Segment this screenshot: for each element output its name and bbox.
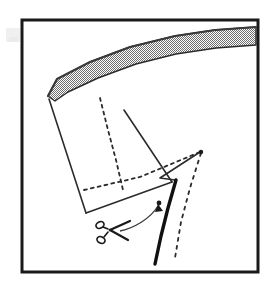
figure-drawing (0, 0, 274, 292)
arrow-tail-dot (157, 201, 162, 206)
scan-artifact-blob-secondary (9, 37, 18, 42)
scissors-pivot (109, 229, 112, 232)
scan-artifact (6, 28, 20, 42)
figure-container: Cutting diagram with scissors and fold l… (0, 0, 274, 292)
flap-vertex-dot (199, 150, 203, 154)
